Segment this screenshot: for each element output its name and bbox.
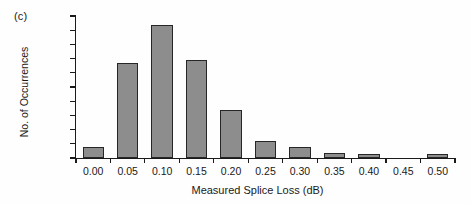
- bar: [83, 147, 104, 158]
- figure-panel-c: (c) No. of Occurrences 02040608010012014…: [0, 0, 471, 205]
- bar: [324, 153, 345, 158]
- bar: [220, 110, 241, 158]
- x-axis-title-wrap: Measured Splice Loss (dB): [0, 184, 471, 196]
- bar: [117, 63, 138, 158]
- bar: [151, 25, 172, 158]
- y-axis-title: No. of Occurrences: [18, 37, 30, 147]
- bar: [427, 154, 448, 158]
- x-tick-mark: [420, 158, 421, 163]
- x-tick-mark: [213, 158, 214, 163]
- x-tick-mark: [110, 158, 111, 163]
- x-axis-title: Measured Splice Loss (dB): [147, 184, 323, 196]
- bar: [289, 147, 310, 158]
- x-tick-mark: [351, 158, 352, 163]
- bar: [186, 60, 207, 158]
- plot-area: [76, 16, 455, 158]
- x-tick-mark: [454, 158, 455, 163]
- x-tick-mark: [282, 158, 283, 163]
- x-tick-mark: [179, 158, 180, 163]
- x-tick-mark: [75, 158, 76, 163]
- x-tick-mark: [248, 158, 249, 163]
- x-tick-label: 0.50: [416, 165, 460, 177]
- x-tick-mark: [385, 158, 386, 163]
- x-tick-mark: [317, 158, 318, 163]
- panel-label: (c): [14, 10, 27, 22]
- bar: [255, 141, 276, 158]
- x-tick-mark: [144, 158, 145, 163]
- bar: [358, 154, 379, 158]
